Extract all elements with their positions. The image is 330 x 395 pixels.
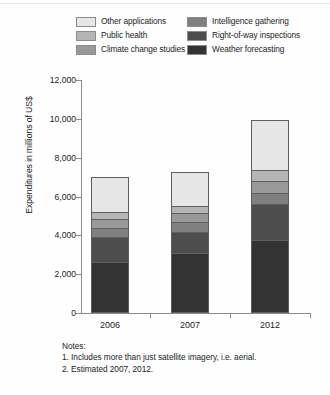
y-tick-label: 0 — [30, 308, 76, 318]
x-tick-label: 2012 — [240, 320, 300, 330]
y-tick-label: 6,000 — [30, 192, 76, 202]
chart-notes: Notes: 1. Includes more than just satell… — [62, 341, 322, 375]
x-tick-mark — [230, 313, 231, 318]
y-tick-label: 2,000 — [30, 269, 76, 279]
y-tick-mark — [76, 313, 81, 314]
x-tick-mark — [150, 313, 151, 318]
bar-segment[interactable] — [252, 181, 288, 193]
bar-segment[interactable] — [252, 240, 288, 312]
bar-segment[interactable] — [172, 232, 208, 253]
bar-2012[interactable] — [251, 120, 289, 313]
x-tick-mark — [310, 313, 311, 318]
x-axis-line — [81, 313, 311, 314]
bars-container — [81, 80, 311, 313]
notes-item-2: 2. Estimated 2007, 2012. — [62, 364, 322, 375]
notes-item-1: 1. Includes more than just satellite ima… — [62, 352, 322, 363]
y-tick-label: 12,000 — [30, 75, 76, 85]
bar-segment[interactable] — [172, 253, 208, 312]
bar-2007[interactable] — [171, 172, 209, 313]
x-tick-label: 2006 — [80, 320, 140, 330]
chart-plot-area: Expenditures in millions of US$ 02,0004,… — [0, 0, 330, 340]
bar-segment[interactable] — [252, 121, 288, 170]
chart-page: Other applications Public health Climate… — [0, 0, 330, 395]
bar-segment[interactable] — [92, 262, 128, 312]
bar-segment[interactable] — [92, 237, 128, 262]
y-tick-label: 10,000 — [30, 114, 76, 124]
bar-segment[interactable] — [92, 212, 128, 220]
bar-segment[interactable] — [92, 178, 128, 211]
notes-heading: Notes: — [62, 341, 322, 352]
bar-segment[interactable] — [252, 204, 288, 240]
bar-segment[interactable] — [172, 222, 208, 232]
bar-segment[interactable] — [172, 173, 208, 206]
bar-2006[interactable] — [91, 177, 129, 313]
x-tick-label: 2007 — [160, 320, 220, 330]
bar-segment[interactable] — [92, 228, 128, 238]
y-tick-label: 8,000 — [30, 153, 76, 163]
bar-segment[interactable] — [252, 193, 288, 205]
bar-segment[interactable] — [252, 170, 288, 182]
bar-segment[interactable] — [172, 206, 208, 214]
y-tick-label: 4,000 — [30, 230, 76, 240]
bar-segment[interactable] — [92, 219, 128, 228]
bar-segment[interactable] — [172, 213, 208, 222]
